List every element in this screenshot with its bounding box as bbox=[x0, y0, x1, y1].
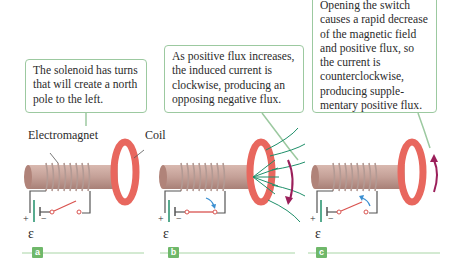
callout-c: Opening the switch causes a rapid decrea… bbox=[312, 0, 437, 113]
emf-symbol-a: ε bbox=[28, 226, 34, 242]
callout-a: The solenoid has turns that will create … bbox=[25, 59, 147, 113]
callout-b: As positive flux increases, the induced … bbox=[164, 45, 304, 113]
minus-sign-b: − bbox=[176, 213, 182, 224]
panel-badge-a: a bbox=[32, 247, 43, 258]
plus-sign-a: + bbox=[23, 213, 29, 224]
panel-badge-b: b bbox=[168, 247, 179, 258]
minus-sign-c: − bbox=[328, 213, 334, 224]
panel-c bbox=[311, 142, 438, 222]
panel-badge-c: c bbox=[316, 247, 327, 258]
emf-symbol-c: ε bbox=[315, 226, 321, 242]
minus-sign-a: − bbox=[41, 213, 47, 224]
plus-sign-b: + bbox=[158, 213, 164, 224]
coil-label: Coil bbox=[145, 128, 166, 143]
electromagnet-label: Electromagnet bbox=[28, 128, 98, 143]
emf-symbol-b: ε bbox=[163, 226, 169, 242]
plus-sign-c: + bbox=[310, 213, 316, 224]
